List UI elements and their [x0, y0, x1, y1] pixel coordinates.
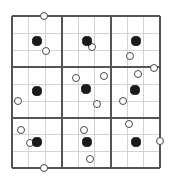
filled-circle-marker — [32, 86, 41, 95]
filled-circle-marker — [82, 36, 91, 45]
filled-circle-marker — [32, 36, 41, 45]
filled-circle-marker — [32, 137, 41, 146]
filled-circle-marker — [131, 36, 140, 45]
filled-circle-marker — [81, 84, 90, 93]
filled-circle-marker — [82, 137, 91, 146]
diagram-canvas — [0, 0, 174, 187]
filled-circle-marker — [130, 85, 139, 94]
filled-circle-marker — [131, 137, 140, 146]
